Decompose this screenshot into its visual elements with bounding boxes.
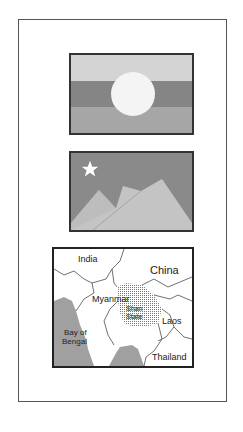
flag-star-mountains [69, 151, 194, 232]
map-label-india: India [78, 255, 98, 264]
star-icon [81, 160, 99, 178]
map-label-bay: Bay of [64, 329, 87, 337]
map-label-shan: Shan [126, 305, 142, 312]
flag-sun [69, 53, 194, 135]
sun-icon [111, 72, 155, 116]
map-label-china: China [150, 265, 179, 276]
map-label-laos: Laos [162, 317, 182, 326]
map-label-myanmar: Myanmar [92, 295, 130, 304]
map-label-thailand: Thailand [152, 353, 187, 362]
region-map: India China Myanmar Shan State Laos Bay … [52, 247, 194, 368]
map-label-bengal: Bengal [62, 338, 87, 346]
map-label-state: State [126, 313, 142, 320]
